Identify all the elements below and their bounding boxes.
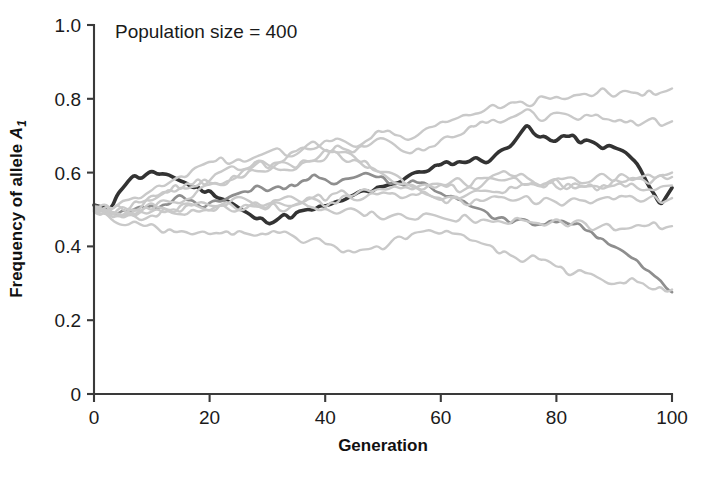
y-tick-label-0.6: 0.6: [55, 163, 81, 184]
x-tick-label-80: 80: [546, 407, 567, 428]
population-size-annotation: Population size = 400: [115, 21, 297, 42]
x-tick-label-100: 100: [656, 407, 688, 428]
y-tick-label-0.2: 0.2: [55, 310, 81, 331]
figure-container: 00.20.40.60.81.0 020406080100 Population…: [0, 0, 707, 479]
y-tick-label-0: 0: [70, 384, 81, 405]
x-tick-label-20: 20: [199, 407, 220, 428]
svg-text:Frequency of allele A1: Frequency of allele A1: [7, 120, 29, 298]
genetic-drift-chart: 00.20.40.60.81.0 020406080100 Population…: [0, 0, 707, 479]
y-tick-label-0.8: 0.8: [55, 89, 81, 110]
y-axis-title: Frequency of allele A1: [7, 120, 29, 298]
y-axis-title-main: Frequency of allele: [7, 139, 26, 298]
x-tick-label-40: 40: [315, 407, 336, 428]
y-tick-label-0.4: 0.4: [55, 236, 82, 257]
y-axis-title-allele: A: [7, 127, 26, 140]
x-tick-label-60: 60: [430, 407, 451, 428]
y-axis-title-subscript: 1: [15, 120, 29, 127]
x-axis-title: Generation: [338, 436, 428, 455]
x-tick-label-0: 0: [89, 407, 100, 428]
y-tick-label-1.0: 1.0: [55, 15, 81, 36]
